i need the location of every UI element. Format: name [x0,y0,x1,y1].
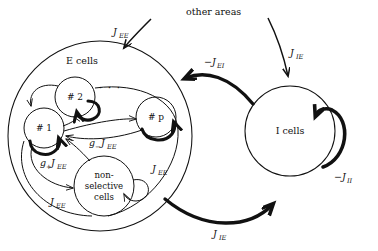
nonselective-label-line1: non- [94,170,113,180]
gplus-jee-label: g + J EE [40,157,67,171]
jee-top-sub: EE [118,32,129,40]
nonselective-label-line2: selective [85,181,123,191]
jie-bottom-label: J IE [211,228,227,242]
pool1-to-pool2-arrow [63,117,76,126]
jee-ns-self-sub: EE [157,169,168,177]
pool-p-label: # p [148,112,164,122]
external-to-i-arrow [268,18,288,76]
jee-ns-self-J: J [150,163,157,174]
jii-J: −J [334,171,347,182]
pool1-to-poolp-arrow [64,119,136,131]
jie-bottom-sub: IE [218,234,227,242]
jee-nonselective-in-label: J EE [48,196,66,210]
jei-sub: EI [216,62,225,70]
gplus-sub: EE [56,163,67,171]
nonselective-label-line3: cells [94,192,114,202]
neural-circuit-diagram: other areas E cells I cells # 1 # 2 # p … [0,0,378,251]
gplus-J: J [49,157,56,168]
pool-1-self-loop [30,139,60,154]
i-to-e-inhibition-arrow [186,75,253,104]
pool-2-label: # 2 [67,92,83,102]
jie-top-sub: IE [295,53,304,61]
other-areas-label: other areas [186,6,241,17]
jee-top-label: J EE [111,26,129,40]
e-cells-label: E cells [66,55,98,66]
e-cells-boundary [8,41,192,231]
e-to-i-excitation-arrow [165,199,272,223]
jee-nonselective-self-label: J EE [150,163,168,177]
gminus-sign: − [95,143,101,151]
jee-ns-in-J: J [48,196,55,207]
i-cells-label: I cells [276,125,305,136]
gminus-J: J [99,137,106,148]
jii-sub: II [346,177,353,185]
jee-top-J: J [111,26,118,37]
ellipsis-dots: · · · [99,82,121,95]
pool2-to-pool1-arrow [31,85,58,106]
jie-top-J: J [288,47,295,58]
pool-1-label: # 1 [36,123,52,133]
jei-J: −J [204,56,217,67]
jee-ns-in-sub: EE [55,202,66,210]
jie-top-label: J IE [288,47,304,61]
nonselective-to-pool1-arrow [66,139,90,161]
gminus-jee-label: g − J EE [89,137,117,151]
jie-bottom-J: J [211,228,218,239]
jei-label: −J EI [204,56,225,70]
pool-2-self-loop [77,101,99,120]
jii-label: −J II [334,171,353,185]
i-self-inhibition-loop [316,109,345,167]
gminus-sub: EE [106,143,117,151]
diagram-canvas: other areas E cells I cells # 1 # 2 # p … [0,0,378,251]
